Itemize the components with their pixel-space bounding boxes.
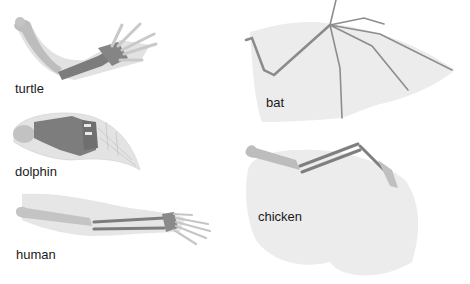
label-chicken: chicken (258, 210, 302, 223)
label-turtle: turtle (15, 82, 44, 95)
dolphin-flipper (13, 113, 140, 170)
homologous-limbs-diagram: turtle dolphin human bat chicken (0, 0, 470, 284)
label-bat: bat (266, 96, 284, 109)
label-dolphin: dolphin (15, 165, 57, 178)
label-human: human (16, 248, 56, 261)
human-arm (16, 194, 210, 244)
limbs-illustration (0, 0, 470, 284)
turtle-limb (14, 17, 156, 80)
